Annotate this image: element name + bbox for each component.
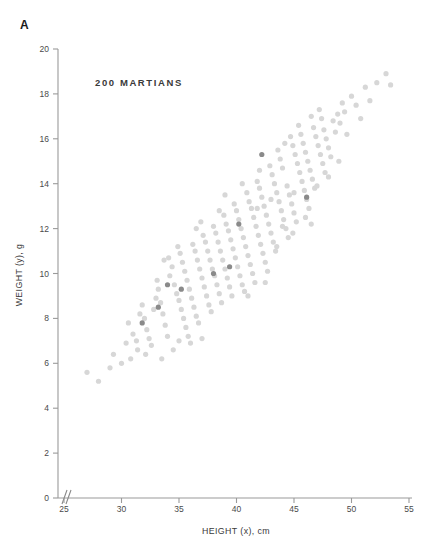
data-point	[188, 341, 193, 346]
data-point	[184, 278, 189, 283]
data-point	[296, 123, 301, 128]
data-point	[253, 224, 258, 229]
data-point	[273, 248, 278, 253]
data-point	[305, 159, 310, 164]
data-point	[213, 230, 218, 235]
data-point	[302, 188, 307, 193]
data-point	[220, 257, 225, 262]
data-point	[259, 152, 264, 157]
data-point	[265, 269, 270, 274]
data-point	[233, 255, 238, 260]
x-tick-label: 45	[289, 504, 299, 514]
data-point	[289, 201, 294, 206]
data-point	[310, 177, 315, 182]
y-tick-label: 12	[40, 224, 50, 234]
data-point	[240, 282, 245, 287]
data-point	[221, 213, 226, 218]
data-point	[167, 273, 172, 278]
data-point	[256, 233, 261, 238]
data-point	[314, 183, 319, 188]
data-point	[96, 379, 101, 384]
data-point	[193, 248, 198, 253]
axis-break-icon	[62, 490, 71, 504]
data-point	[237, 273, 242, 278]
data-point	[241, 235, 246, 240]
data-point	[311, 125, 316, 130]
data-point	[336, 159, 341, 164]
data-point	[340, 100, 345, 105]
data-point	[280, 224, 285, 229]
data-point	[244, 190, 249, 195]
data-point	[232, 201, 237, 206]
data-point	[354, 103, 359, 108]
data-point	[174, 291, 179, 296]
data-point	[201, 233, 206, 238]
data-point	[227, 264, 232, 269]
data-point	[288, 134, 293, 139]
data-point	[234, 208, 239, 213]
data-point	[274, 244, 279, 249]
data-point	[388, 82, 393, 87]
data-point	[293, 152, 298, 157]
data-point	[158, 300, 163, 305]
data-point	[295, 161, 300, 166]
data-point	[337, 120, 342, 125]
data-point	[224, 222, 229, 227]
x-axis-ticks: 25303540455055	[59, 498, 414, 514]
data-point	[175, 244, 180, 249]
data-point	[245, 293, 250, 298]
data-point	[358, 116, 363, 121]
data-point	[263, 280, 268, 285]
data-point	[242, 289, 247, 294]
data-point	[335, 112, 340, 117]
data-point	[205, 248, 210, 253]
data-point	[130, 332, 135, 337]
data-point	[186, 334, 191, 339]
data-point	[190, 242, 195, 247]
data-point	[324, 136, 329, 141]
data-point	[320, 161, 325, 166]
data-point	[84, 370, 89, 375]
data-point	[134, 338, 139, 343]
data-point	[161, 257, 166, 262]
data-point	[308, 168, 313, 173]
data-point	[250, 271, 255, 276]
data-point	[280, 165, 285, 170]
data-point	[243, 244, 248, 249]
y-tick-label: 2	[44, 448, 49, 458]
data-point	[179, 307, 184, 312]
data-point	[275, 147, 280, 152]
data-point	[144, 327, 149, 332]
data-point	[166, 255, 171, 260]
data-point	[281, 217, 286, 222]
data-point	[270, 172, 275, 177]
data-point	[140, 302, 145, 307]
data-points-layer	[84, 71, 393, 384]
data-point	[236, 217, 241, 222]
data-point	[333, 129, 338, 134]
scatter-plot-svg: 02468101214161820 25303540455055 HEIGHT …	[0, 0, 437, 555]
data-point	[321, 127, 326, 132]
data-point	[271, 239, 276, 244]
data-point	[197, 266, 202, 271]
data-point	[287, 192, 292, 197]
data-point	[257, 186, 262, 191]
x-tick-label: 25	[59, 504, 69, 514]
data-point	[151, 307, 156, 312]
data-point	[304, 195, 309, 200]
data-point	[199, 336, 204, 341]
data-point	[313, 134, 318, 139]
y-axis-title: WEIGHT (y), g	[14, 244, 24, 307]
data-point	[198, 219, 203, 224]
data-point	[328, 154, 333, 159]
data-point	[159, 356, 164, 361]
data-point	[272, 181, 277, 186]
data-point	[297, 170, 302, 175]
data-point	[182, 269, 187, 274]
y-tick-label: 6	[44, 358, 49, 368]
data-point	[363, 85, 368, 90]
data-point	[194, 314, 199, 319]
data-point	[326, 145, 331, 150]
data-point	[171, 347, 176, 352]
data-point	[126, 320, 131, 325]
